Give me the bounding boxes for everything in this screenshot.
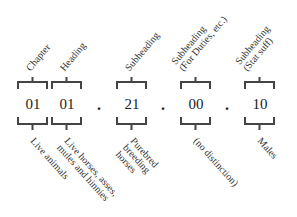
code-subheading-stat: 10 bbox=[245, 96, 275, 112]
separator-dot-3: . bbox=[225, 97, 229, 113]
code-subheading-duties: 00 bbox=[181, 96, 211, 112]
separator-dot-2: . bbox=[161, 97, 165, 113]
code-subheading: 21 bbox=[117, 96, 147, 112]
code-chapter: 01 bbox=[18, 96, 48, 112]
separator-dot-1: . bbox=[97, 97, 101, 113]
code-heading: 01 bbox=[52, 96, 82, 112]
